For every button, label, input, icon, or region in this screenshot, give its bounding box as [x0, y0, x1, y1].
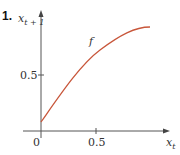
problem-number: 1.	[2, 9, 12, 23]
chart: 1. xt + 1 xt 0 0.5 0.5 f	[0, 0, 180, 155]
curve-f	[41, 27, 150, 122]
origin-label: 0	[33, 136, 40, 149]
x-tick-label: 0.5	[88, 136, 106, 149]
y-axis-arrow-icon	[39, 10, 44, 17]
y-tick-label: 0.5	[20, 69, 38, 82]
x-axis-arrow-icon	[163, 129, 170, 134]
curve-label: f	[88, 35, 95, 48]
x-axis-label: xt	[166, 136, 176, 151]
